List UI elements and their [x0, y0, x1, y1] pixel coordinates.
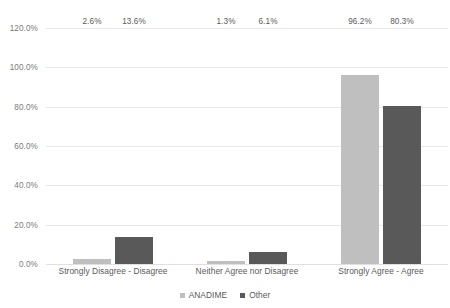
bar-groups: 2.6%13.6%1.3%6.1%96.2%80.3% [46, 28, 448, 264]
legend-entry[interactable]: ANADIME [180, 290, 228, 300]
bar-value-label: 13.6% [122, 17, 146, 26]
bar-slot: 1.3% [207, 28, 245, 264]
bar[interactable]: 96.2% [341, 75, 379, 264]
y-axis-tick-label: 0.0% [19, 260, 38, 269]
legend-label: Other [249, 290, 270, 300]
legend-swatch-icon [240, 293, 245, 298]
bar[interactable]: 1.3% [207, 261, 245, 264]
gridline [46, 264, 448, 265]
bar-value-label: 1.3% [216, 17, 235, 26]
y-axis-tick-label: 100.0% [10, 63, 38, 72]
bar-cluster: 96.2%80.3% [314, 28, 448, 264]
bar-slot: 80.3% [383, 28, 421, 264]
bar[interactable]: 6.1% [249, 252, 287, 264]
y-axis-tick-label: 120.0% [10, 24, 38, 33]
bar-value-label: 80.3% [390, 17, 414, 26]
legend-label: ANADIME [189, 290, 228, 300]
bar-slot: 2.6% [73, 28, 111, 264]
legend-entry[interactable]: Other [240, 290, 270, 300]
chart-legend: ANADIMEOther [0, 288, 450, 302]
y-axis-tick-label: 80.0% [14, 102, 38, 111]
y-axis-tick-label: 40.0% [14, 181, 38, 190]
bar[interactable]: 13.6% [115, 237, 153, 264]
bar-cluster: 2.6%13.6% [46, 28, 180, 264]
y-axis: 0.0%20.0%40.0%60.0%80.0%100.0%120.0% [0, 28, 42, 264]
y-axis-tick-label: 20.0% [14, 220, 38, 229]
bar-group: 2.6%13.6% [46, 28, 180, 264]
plot-area: 2.6%13.6%1.3%6.1%96.2%80.3% [46, 28, 448, 264]
bar-slot: 96.2% [341, 28, 379, 264]
bar[interactable]: 80.3% [383, 106, 421, 264]
bar-cluster: 1.3%6.1% [180, 28, 314, 264]
bar-group: 96.2%80.3% [314, 28, 448, 264]
category-label: Strongly Agree - Agree [314, 266, 448, 282]
y-axis-tick-label: 60.0% [14, 142, 38, 151]
legend-swatch-icon [180, 293, 185, 298]
category-label: Strongly Disagree - Disagree [46, 266, 180, 282]
bar-slot: 6.1% [249, 28, 287, 264]
bar-chart: 0.0%20.0%40.0%60.0%80.0%100.0%120.0% 2.6… [0, 0, 450, 308]
bar-slot: 13.6% [115, 28, 153, 264]
bar[interactable]: 2.6% [73, 259, 111, 264]
bar-value-label: 2.6% [82, 17, 101, 26]
bar-value-label: 96.2% [348, 17, 372, 26]
bar-group: 1.3%6.1% [180, 28, 314, 264]
bar-value-label: 6.1% [258, 17, 277, 26]
category-axis: Strongly Disagree - DisagreeNeither Agre… [46, 266, 448, 282]
category-label: Neither Agree nor Disagree [180, 266, 314, 282]
